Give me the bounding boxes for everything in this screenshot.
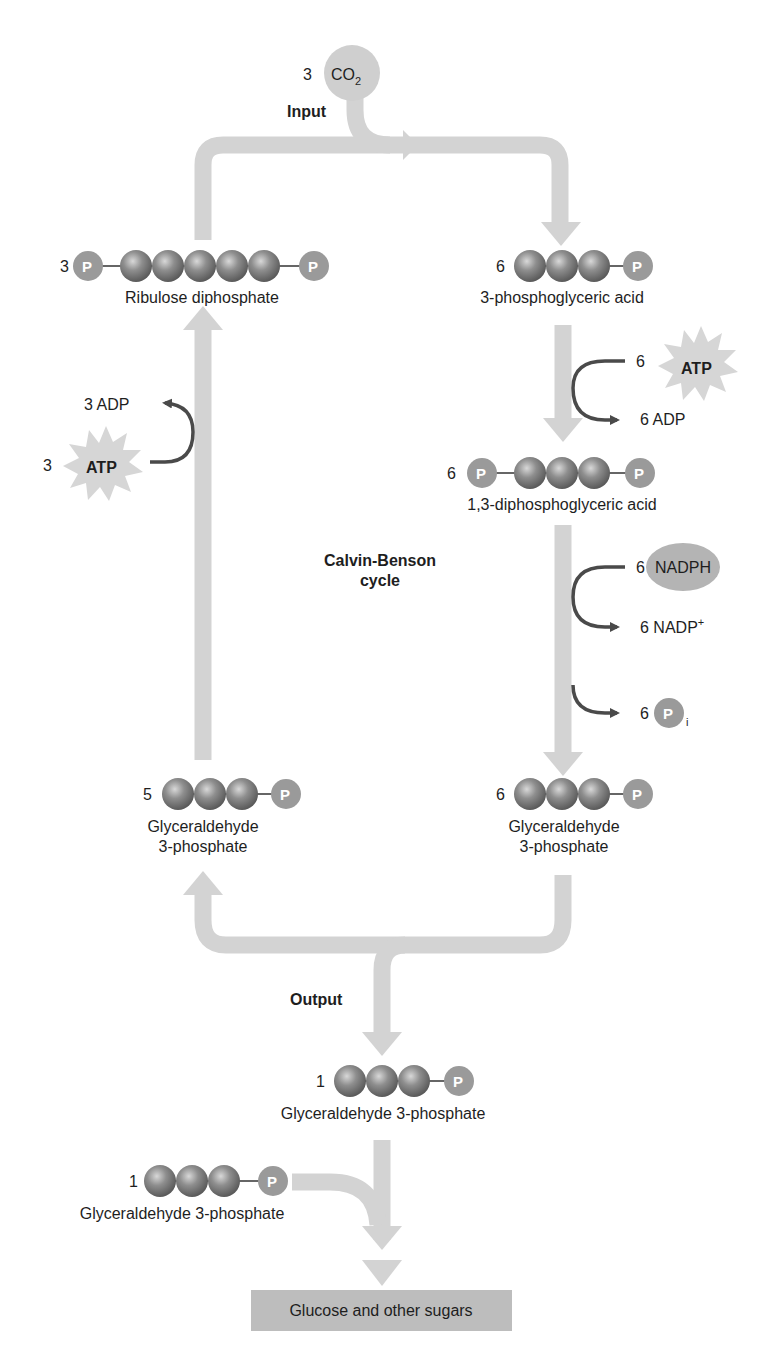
input-label: Input (287, 103, 327, 120)
arrowhead-down-g3p (543, 752, 583, 776)
svg-text:Glyceraldehyde 3-phosphate: Glyceraldehyde 3-phosphate (80, 1205, 285, 1222)
reaction-arrow (150, 403, 193, 462)
arrowhead-down-sugars-2 (362, 1260, 402, 1286)
atp-consumption-left: 3 ATP 3 ADP (43, 396, 193, 501)
atp-left-count: 3 (43, 457, 52, 474)
svg-text:Calvin-Benson: Calvin-Benson (324, 552, 436, 569)
co2-count: 3 (303, 66, 312, 83)
nadp-label: 6 NADP+ (640, 616, 704, 636)
svg-text:P: P (632, 258, 642, 275)
carbon-bead-icon (226, 778, 258, 810)
adp-left-label: 3 ADP (84, 396, 129, 413)
svg-text:P: P (267, 1173, 277, 1190)
ribulose-count: 3 (60, 258, 69, 275)
pipe-bottom-loop (203, 875, 563, 945)
reaction-arrow (573, 361, 625, 420)
carbon-bead-icon (398, 1065, 430, 1097)
reaction-arrow (573, 685, 617, 713)
carbon-bead-icon (578, 250, 610, 282)
carbon-bead-icon (366, 1065, 398, 1097)
carbon-bead-icon (334, 1065, 366, 1097)
carbon-bead-icon (162, 778, 194, 810)
dpga-count: 6 (447, 465, 456, 482)
product-glucose: Glucose and other sugars (251, 1290, 512, 1331)
carbon-bead-icon (546, 457, 578, 489)
pipe-top-loop (203, 145, 560, 240)
carbon-bead-icon (514, 778, 546, 810)
pipe-output (382, 945, 405, 1035)
carbon-bead-icon (546, 250, 578, 282)
svg-text:cycle: cycle (360, 572, 400, 589)
svg-text:Glyceraldehyde: Glyceraldehyde (508, 818, 619, 835)
atp-right-count: 6 (636, 353, 645, 370)
carbon-bead-icon (514, 457, 546, 489)
svg-text:P: P (663, 705, 673, 722)
molecule-g3p-recycled: 5 P Glyceraldehyde 3-phosphate (143, 778, 301, 855)
nadph-label: NADPH (655, 559, 711, 576)
product-label: Glucose and other sugars (289, 1302, 472, 1319)
g3p-output-count: 1 (316, 1073, 325, 1090)
molecule-1-3-diphosphoglyceric-acid: 6 P P 1,3-diphosphoglyceric acid (447, 457, 657, 513)
pi-subscript: i (686, 716, 688, 728)
arrowhead-up-ribulose (183, 306, 223, 330)
carbon-bead-icon (514, 250, 546, 282)
carbon-bead-icon (194, 778, 226, 810)
arrowhead-down-sugars-1 (362, 1226, 402, 1250)
arrowhead-down-dpga (543, 418, 583, 442)
nadph-consumption: 6 NADPH 6 NADP+ (573, 543, 720, 636)
svg-text:3-phosphate: 3-phosphate (520, 838, 609, 855)
carbon-bead-icon (184, 250, 216, 282)
molecule-g3p-produced: 6 P Glyceraldehyde 3-phosphate (496, 778, 653, 855)
svg-text:P: P (634, 465, 644, 482)
calvin-cycle-diagram: 3 CO2 Input 3 P P Ribulose diphosphate 6… (0, 0, 779, 1372)
pga-name: 3-phosphoglyceric acid (480, 289, 644, 306)
atp-consumption-right: 6 ATP 6 ADP (573, 326, 738, 428)
atp-right-label: ATP (681, 360, 712, 377)
svg-text:P: P (82, 258, 92, 275)
cycle-title: Calvin-Benson cycle (324, 552, 436, 589)
molecule-g3p-output: 1 P Glyceraldehyde 3-phosphate (281, 1065, 486, 1122)
nadph-count: 6 (636, 559, 645, 576)
svg-text:P: P (476, 465, 486, 482)
atp-left-label: ATP (86, 459, 117, 476)
arrowhead-down-output (362, 1032, 402, 1056)
pipe-g3p-merge-side (292, 1182, 378, 1225)
co2-input: 3 CO2 Input (287, 45, 380, 120)
arrowhead-top-right (403, 130, 418, 160)
molecule-ribulose-diphosphate: 3 P P Ribulose diphosphate (60, 250, 329, 306)
output-label: Output (290, 991, 343, 1008)
g3p-second-count: 1 (129, 1173, 138, 1190)
arrowhead-up-g3p-left (183, 871, 223, 895)
carbon-bead-icon (152, 250, 184, 282)
carbon-bead-icon (578, 778, 610, 810)
carbon-bead-icon (176, 1165, 208, 1197)
svg-text:P: P (632, 786, 642, 803)
svg-text:3-phosphate: 3-phosphate (159, 838, 248, 855)
carbon-bead-icon (216, 250, 248, 282)
carbon-bead-icon (144, 1165, 176, 1197)
molecule-3-phosphoglyceric-acid: 6 P 3-phosphoglyceric acid (480, 250, 653, 306)
carbon-bead-icon (120, 250, 152, 282)
ribulose-name: Ribulose diphosphate (125, 289, 279, 306)
cycle-pipes (203, 70, 563, 1240)
dpga-name: 1,3-diphosphoglyceric acid (467, 496, 656, 513)
pi-count: 6 (640, 705, 649, 722)
reaction-arrow (573, 567, 625, 627)
pga-count: 6 (496, 258, 505, 275)
phosphate-release: 6 P i (573, 685, 688, 728)
g3p-right-count: 6 (496, 786, 505, 803)
svg-text:Glyceraldehyde 3-phosphate: Glyceraldehyde 3-phosphate (281, 1105, 486, 1122)
svg-text:P: P (453, 1073, 463, 1090)
adp-right-label: 6 ADP (640, 411, 685, 428)
svg-text:P: P (280, 786, 290, 803)
molecule-g3p-second: 1 P Glyceraldehyde 3-phosphate (80, 1165, 288, 1222)
carbon-bead-icon (248, 250, 280, 282)
arrowhead-down-pga (541, 222, 581, 246)
svg-text:Glyceraldehyde: Glyceraldehyde (147, 818, 258, 835)
carbon-bead-icon (208, 1165, 240, 1197)
svg-text:P: P (308, 258, 318, 275)
carbon-bead-icon (546, 778, 578, 810)
g3p-left-count: 5 (143, 786, 152, 803)
carbon-bead-icon (578, 457, 610, 489)
